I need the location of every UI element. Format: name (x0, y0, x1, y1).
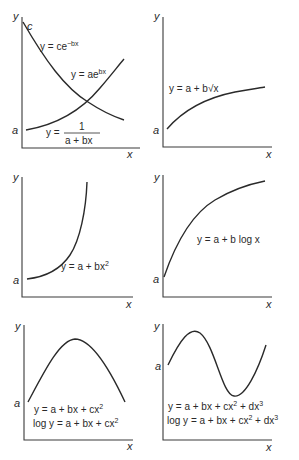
x-axis-label: x (126, 440, 133, 452)
equation-reciprocal-denominator: a + bx (65, 135, 93, 146)
y-axis-label: y (12, 171, 20, 183)
x-axis-label: x (265, 298, 272, 310)
intercept-a-label: a (14, 397, 20, 409)
equation-quadratic: y = a + bx2 (61, 260, 109, 272)
panel-square-root: y x a y = a + b√x (153, 10, 272, 160)
panel-quadratic-growth: y x a y = a + bx2 (12, 171, 133, 310)
equation-sqrt: y = a + b√x (169, 83, 218, 94)
equation-cubic: y = a + bx + cx2 + dx3 (168, 400, 263, 412)
y-axis-label: y (153, 10, 161, 22)
panel-parabola: y x a y = a + bx + cx2 log y = a + bx + … (14, 320, 133, 452)
panel-exponential-reciprocal: y x c a y = ce−bx y = aebx y = 1 a + bx (12, 10, 140, 160)
intercept-a-label: a (12, 124, 18, 136)
y-axis-label: y (153, 171, 161, 183)
y-axis-label: y (12, 10, 20, 22)
equation-cubic-log: log y = a + bx + cx2 + dx3 (167, 414, 278, 426)
curve-forms-figure: y x c a y = ce−bx y = aebx y = 1 a + bx … (0, 0, 299, 460)
equation-growth: y = aebx (71, 68, 106, 80)
y-axis-label: y (153, 320, 161, 332)
panel-logarithmic: y x a y = a + b log x (153, 171, 272, 310)
x-axis-label: x (125, 298, 132, 310)
x-axis-label: x (126, 148, 133, 160)
equation-reciprocal-numerator: 1 (79, 121, 85, 132)
equation-log: y = a + b log x (197, 234, 260, 245)
equation-decay: y = ce−bx (40, 40, 79, 52)
equation-parabola: y = a + bx + cx2 (34, 403, 103, 415)
parabola-curve (28, 339, 125, 402)
intercept-a-label: a (153, 124, 159, 136)
panel-cubic: y x a y = a + bx + cx2 + dx3 log y = a +… (153, 320, 278, 453)
intercept-a-label: a (155, 360, 161, 372)
equation-reciprocal-lhs: y = (46, 127, 60, 138)
x-axis-label: x (265, 441, 272, 453)
equation-parabola-log: log y = a + bx + cx2 (33, 417, 118, 429)
y-axis-label: y (14, 320, 22, 332)
axes (163, 17, 272, 147)
cubic-curve (168, 331, 266, 396)
log-curve (164, 181, 265, 277)
intercept-a-label: a (153, 273, 159, 285)
x-axis-label: x (265, 148, 272, 160)
intercept-a-label: a (13, 274, 19, 286)
